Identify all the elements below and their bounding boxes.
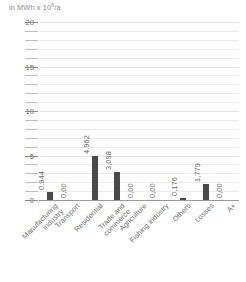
y-axis-tick bbox=[25, 120, 38, 121]
y-axis-tick bbox=[25, 138, 38, 139]
bar-value-label: 3,098 bbox=[104, 151, 113, 170]
bar-value-label: 0,176 bbox=[171, 177, 180, 196]
y-axis-tick bbox=[25, 58, 38, 59]
y-axis-tick bbox=[25, 102, 38, 103]
bar-slot[interactable]: 1,779 bbox=[195, 22, 217, 200]
bar[interactable] bbox=[92, 156, 98, 200]
x-axis-tick-label: Manufacturing industry bbox=[0, 202, 66, 274]
bar-slot[interactable]: 0,00 bbox=[217, 22, 239, 200]
bar-value-label: 0.944 bbox=[38, 171, 47, 190]
y-axis-tick bbox=[25, 84, 38, 85]
y-axis-tick bbox=[25, 156, 38, 157]
y-axis-tick bbox=[25, 129, 38, 130]
bar-slot[interactable]: 0,00 bbox=[61, 22, 83, 200]
y-axis-tick bbox=[25, 200, 38, 201]
y-axis-tick bbox=[25, 191, 38, 192]
bar-slot[interactable]: 4.962 bbox=[83, 22, 105, 200]
bar-slot[interactable]: 3,098 bbox=[106, 22, 128, 200]
y-axis-tick bbox=[25, 22, 38, 23]
y-axis-tick bbox=[25, 49, 38, 50]
y-axis-unit-suffix: /a bbox=[54, 3, 60, 12]
y-axis-tick bbox=[25, 164, 38, 165]
y-axis-unit-prefix: in MWh x 10 bbox=[9, 3, 51, 12]
bar-value-label: 4.962 bbox=[82, 135, 91, 154]
bar-chart: in MWh x 106/a 05101520 0.9440,004.9623,… bbox=[0, 0, 246, 282]
bar-slot[interactable]: 0,00 bbox=[150, 22, 172, 200]
bar-value-label: 1,779 bbox=[193, 163, 202, 182]
bar-value-label: 0,00 bbox=[215, 183, 224, 198]
bar[interactable] bbox=[47, 192, 53, 200]
bar-slot[interactable]: 0,00 bbox=[128, 22, 150, 200]
bar-series: 0.9440,004.9623,0980,000,000,1761,7790,0… bbox=[39, 22, 239, 200]
y-axis-tick bbox=[25, 93, 38, 94]
bar-value-label: 0,00 bbox=[126, 183, 135, 198]
y-axis-tick bbox=[25, 147, 38, 148]
y-axis-tick bbox=[25, 31, 38, 32]
y-axis-tick bbox=[25, 40, 38, 41]
y-axis-tick bbox=[25, 182, 38, 183]
bar[interactable] bbox=[114, 172, 120, 200]
bar-slot[interactable]: 0.944 bbox=[39, 22, 61, 200]
y-axis-tick bbox=[25, 173, 38, 174]
bar-value-label: 0,00 bbox=[149, 183, 158, 198]
y-axis-unit-caption: in MWh x 106/a bbox=[9, 3, 61, 12]
bar[interactable] bbox=[203, 184, 209, 200]
y-axis-tick bbox=[25, 67, 38, 68]
x-axis-labels: Manufacturing industryTransportResidenti… bbox=[39, 200, 239, 282]
y-axis-tick bbox=[25, 111, 38, 112]
bar-slot[interactable]: 0,176 bbox=[172, 22, 194, 200]
bar-value-label: 0,00 bbox=[60, 183, 69, 198]
y-axis-tick bbox=[25, 75, 38, 76]
